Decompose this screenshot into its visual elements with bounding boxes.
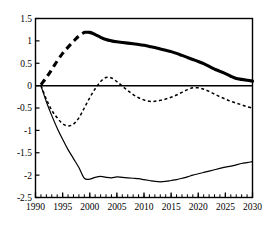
line-chart: 1.510.50-0.5-1-1.5-2-2.5 199019952000200… [0, 0, 271, 232]
x-tick-label: 2010 [135, 202, 154, 212]
chart-container: 1.510.50-0.5-1-1.5-2-2.5 199019952000200… [0, 0, 271, 232]
y-tick-label: -0.5 [17, 103, 32, 113]
x-tick-label: 2020 [189, 202, 208, 212]
x-axis-tick-labels: 199019952000200520102015202020252030 [26, 202, 262, 212]
y-tick-label: 1.5 [20, 14, 32, 24]
y-tick-label: -2 [24, 171, 32, 181]
y-tick-label: -1.5 [17, 148, 32, 158]
x-tick-label: 2000 [80, 202, 99, 212]
x-tick-label: 2025 [216, 202, 235, 212]
x-tick-label: 1990 [26, 202, 45, 212]
x-tick-label: 2030 [243, 202, 262, 212]
y-tick-label: 1 [27, 36, 32, 46]
x-tick-label: 2015 [162, 202, 181, 212]
y-tick-label: 0.5 [20, 59, 32, 69]
y-axis-tick-labels: 1.510.50-0.5-1-1.5-2-2.5 [17, 14, 32, 203]
x-tick-label: 1995 [53, 202, 72, 212]
x-tick-label: 2005 [107, 202, 126, 212]
y-tick-label: -1 [24, 126, 32, 136]
y-tick-label: 0 [27, 81, 32, 91]
